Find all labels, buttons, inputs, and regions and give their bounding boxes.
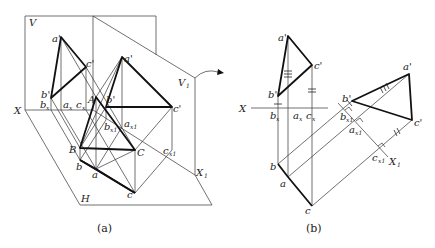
label-B: B (68, 144, 76, 155)
caption-b: (b) (306, 222, 322, 235)
projector-lines (51, 37, 172, 193)
label-b-prime-b: b' (268, 89, 277, 100)
svg-text:x1: x1 (169, 150, 176, 157)
svg-text:x1: x1 (355, 129, 362, 136)
label-c-prime: c' (86, 58, 94, 69)
label-c-b: c (305, 205, 311, 216)
svg-text:x1: x1 (346, 116, 353, 123)
label-V: V (29, 17, 38, 28)
x1-axis (93, 110, 195, 175)
label-a1-prime-b: a' (403, 61, 412, 72)
label-b-b: b (270, 161, 276, 172)
descriptive-geometry-figure: V H V 1 X X 1 a' b' c' a' b' c' b x a x … (0, 0, 435, 248)
triangle-v-projection-b (278, 36, 312, 96)
label-C: C (137, 147, 145, 158)
label-X1-b: X (388, 156, 397, 167)
label-H: H (80, 193, 90, 204)
label-b1-prime: b' (106, 94, 115, 105)
svg-text:x1: x1 (130, 123, 137, 130)
h-plane (25, 110, 212, 205)
label-b1-prime-b: b' (342, 93, 351, 104)
label-A: A (87, 94, 95, 105)
figure-b: X X 1 a' b' c' a' b' c' b x a x c x b x1… (238, 32, 422, 235)
triangle-v-projection (51, 37, 86, 98)
label-c: c (127, 189, 133, 200)
svg-text:x: x (276, 115, 280, 122)
svg-text:x: x (312, 115, 316, 122)
equal-length-ticks (274, 71, 400, 136)
svg-text:x1: x1 (378, 157, 385, 164)
label-c-prime-b: c' (314, 60, 322, 71)
svg-text:1: 1 (186, 82, 190, 89)
label-a-prime: a' (52, 33, 61, 44)
label-c1-prime: c' (173, 103, 181, 114)
figure-a: V H V 1 X X 1 a' b' c' a' b' c' b x a x … (13, 16, 224, 235)
svg-text:x1: x1 (110, 126, 117, 133)
triangle-v1-projection (106, 57, 172, 107)
rotation-arrow (195, 71, 218, 78)
svg-text:x: x (299, 115, 303, 122)
label-b: b (76, 161, 82, 172)
label-a: a (92, 169, 98, 180)
label-c1-prime-b: c' (414, 117, 422, 128)
label-a-b: a (280, 178, 286, 189)
svg-text:1: 1 (204, 172, 208, 179)
label-a1-prime: a' (124, 53, 133, 64)
label-X1: X (195, 167, 204, 178)
label-X: X (13, 105, 22, 116)
arrow-head-icon (217, 69, 224, 75)
svg-text:1: 1 (397, 161, 401, 168)
label-X-b: X (238, 103, 247, 114)
caption-a: (a) (97, 222, 112, 235)
label-a-prime-b: a' (278, 32, 287, 43)
